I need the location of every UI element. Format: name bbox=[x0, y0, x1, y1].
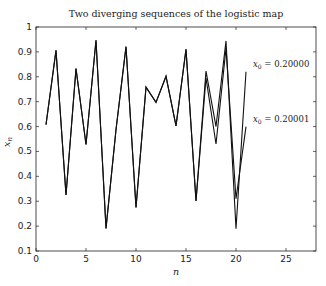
series-annotation: x0 = 0.20000 bbox=[253, 59, 309, 70]
series-line-0 bbox=[46, 40, 246, 228]
y-tick-label: 0.1 bbox=[18, 246, 32, 256]
series-line-1 bbox=[46, 40, 246, 228]
x-tick-label: 0 bbox=[33, 254, 39, 264]
y-tick-label: 1 bbox=[26, 22, 32, 32]
y-tick-label: 0.3 bbox=[18, 196, 32, 206]
y-tick-label: 0.8 bbox=[18, 72, 33, 82]
x-tick-label: 25 bbox=[280, 254, 291, 264]
y-tick-label: 0.7 bbox=[18, 97, 32, 107]
series-lines bbox=[46, 40, 246, 228]
chart-title: Two diverging sequences of the logistic … bbox=[69, 8, 284, 19]
y-axis-label: xn bbox=[1, 137, 14, 147]
series-annotation: x0 = 0.20001 bbox=[253, 114, 309, 125]
x-tick-label: 20 bbox=[230, 254, 242, 264]
y-tick-label: 0.2 bbox=[18, 221, 32, 231]
y-tick-label: 0.6 bbox=[18, 122, 33, 132]
y-tick-label: 0.9 bbox=[18, 47, 33, 57]
x-tick-label: 5 bbox=[83, 254, 89, 264]
y-tick-label: 0.4 bbox=[18, 171, 33, 181]
x-tick-label: 10 bbox=[130, 254, 142, 264]
y-tick-label: 0.5 bbox=[18, 146, 32, 156]
x-axis-label: n bbox=[173, 266, 179, 277]
x-tick-label: 15 bbox=[180, 254, 191, 264]
chart: Two diverging sequences of the logistic … bbox=[0, 0, 326, 286]
annotations: x0 = 0.20000x0 = 0.20001 bbox=[253, 59, 309, 125]
